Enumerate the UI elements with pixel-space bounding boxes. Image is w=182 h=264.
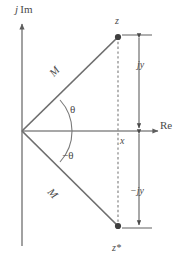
angle-negative-theta-label: −θ [62, 150, 73, 161]
real-part-label: x [120, 136, 124, 146]
imaginary-axis-label: j Im [15, 4, 33, 15]
z-conjugate-point-marker [115, 223, 121, 229]
z-conjugate-point-label: z* [112, 243, 121, 253]
z-point-label: z [115, 16, 119, 26]
imaginary-part-positive-label: jy [137, 60, 144, 70]
z-point-marker [115, 34, 121, 40]
angle-theta-label: θ [70, 104, 75, 115]
imaginary-part-negative-label: −jy [130, 186, 144, 196]
complex-plane-diagram: j Im Re z z* jy −jy x θ −θ M M [0, 0, 182, 264]
real-axis-label: Re [160, 120, 172, 131]
diagram-canvas [0, 0, 182, 264]
